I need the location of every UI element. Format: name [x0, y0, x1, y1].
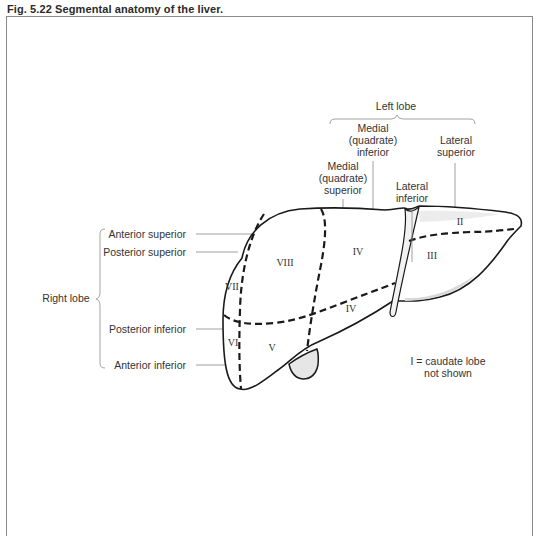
segment-ii-numeral: II: [457, 216, 464, 227]
segment-viii-numeral: VIII: [276, 257, 293, 268]
segment-v-numeral: V: [268, 342, 276, 353]
label-anterior-superior: Anterior superior: [108, 228, 186, 240]
label-posterior-inferior: Posterior inferior: [109, 323, 187, 335]
caudate-note-line2: not shown: [424, 367, 472, 379]
svg-text:(quadrate): (quadrate): [319, 172, 367, 184]
svg-text:Medial: Medial: [328, 160, 359, 172]
caudate-note-line1: I = caudate lobe: [410, 355, 485, 367]
svg-text:(quadrate): (quadrate): [349, 134, 397, 146]
segment-vii-numeral: VII: [225, 281, 239, 292]
svg-text:Lateral: Lateral: [440, 134, 472, 146]
left-lobe-brace: [330, 115, 475, 124]
label-medial-quadrate-superior: Medial (quadrate) superior: [319, 160, 367, 196]
label-lateral-superior: Lateral superior: [437, 134, 475, 158]
svg-text:inferior: inferior: [396, 192, 429, 204]
svg-text:inferior: inferior: [357, 146, 390, 158]
label-anterior-inferior: Anterior inferior: [114, 359, 186, 371]
right-lobe-label: Right lobe: [42, 292, 89, 304]
label-medial-quadrate-inferior: Medial (quadrate) inferior: [349, 122, 397, 158]
svg-text:Lateral: Lateral: [396, 180, 428, 192]
segment-iii-numeral: III: [427, 250, 437, 261]
label-lateral-inferior: Lateral inferior: [396, 180, 429, 204]
label-posterior-superior: Posterior superior: [103, 246, 186, 258]
segment-iv-inferior-numeral: IV: [346, 303, 357, 314]
svg-text:Medial: Medial: [358, 122, 389, 134]
segment-vi-numeral: VI: [228, 337, 239, 348]
svg-text:superior: superior: [324, 184, 362, 196]
left-lobe-label: Left lobe: [376, 100, 416, 112]
segment-iv-superior-numeral: IV: [353, 246, 364, 257]
svg-text:superior: superior: [437, 146, 475, 158]
